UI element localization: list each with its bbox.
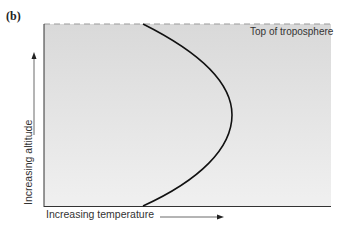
y-axis-label: Increasing altitude xyxy=(22,120,34,205)
y-arrow-head-icon xyxy=(32,52,37,59)
x-arrow-head-icon xyxy=(217,215,224,220)
top-of-troposphere-label: Top of troposphere xyxy=(250,26,333,37)
x-axis-label: Increasing temperature xyxy=(46,208,154,220)
plot-area xyxy=(44,24,331,206)
